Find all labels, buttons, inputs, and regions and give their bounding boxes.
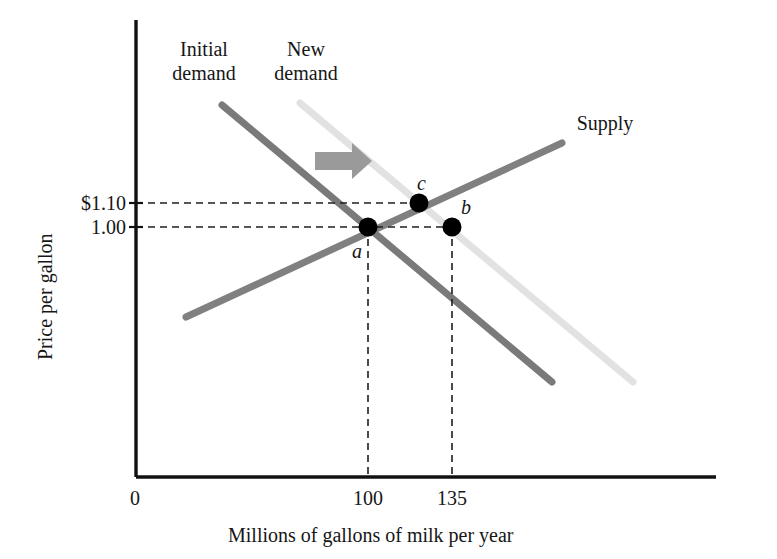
shift-arrow-icon — [315, 143, 372, 179]
chart-canvas — [0, 0, 777, 559]
y-axis-title: Price per gallon — [34, 233, 56, 360]
y-tick-label-100: 1.00 — [30, 216, 126, 238]
point-label-b: b — [461, 196, 471, 218]
initial-demand-label-line2: demand — [148, 62, 260, 84]
x-tick-label-135: 135 — [424, 487, 480, 509]
y-tick-label-110: $1.10 — [30, 192, 126, 214]
new-demand-label-line1: New — [250, 38, 362, 60]
supply-label: Supply — [560, 112, 650, 134]
initial-demand-curve — [222, 105, 552, 382]
chart-figure: Price per gallon $1.10 1.00 0 100 135 Mi… — [0, 0, 777, 559]
x-tick-label-0: 0 — [117, 487, 153, 509]
new-demand-label-line2: demand — [250, 62, 362, 84]
x-axis-title: Millions of gallons of milk per year — [228, 524, 514, 546]
point-label-c: c — [417, 172, 426, 194]
point-label-a: a — [352, 240, 362, 262]
x-tick-label-100: 100 — [340, 487, 396, 509]
point-marker-a — [359, 218, 378, 237]
point-marker-b — [443, 218, 462, 237]
point-marker-c — [410, 194, 429, 213]
initial-demand-label-line1: Initial — [148, 38, 260, 60]
